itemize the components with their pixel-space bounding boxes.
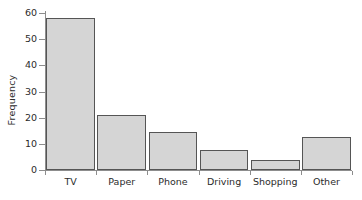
y-tick-label: 10: [0, 139, 37, 149]
x-tick-mark: [301, 171, 302, 175]
x-tick-label: Other: [301, 177, 352, 187]
x-tick-label: Paper: [96, 177, 147, 187]
bar-shopping: [251, 160, 300, 170]
bar-tv: [46, 18, 95, 170]
x-tick-label: Driving: [199, 177, 250, 187]
y-tick-label: 50: [0, 34, 37, 44]
bar-chart: Frequency 0102030405060 TVPaperPhoneDriv…: [0, 0, 362, 200]
y-tick-label: 20: [0, 113, 37, 123]
x-tick-label: Phone: [147, 177, 198, 187]
x-tick-mark: [96, 171, 97, 175]
bar-paper: [97, 115, 146, 170]
y-tick-mark: [39, 118, 45, 119]
bar-other: [302, 137, 351, 170]
y-tick-label: 60: [0, 8, 37, 18]
y-tick-mark: [39, 13, 45, 14]
y-tick-mark: [39, 144, 45, 145]
y-tick-label: 0: [0, 165, 37, 175]
y-tick-mark: [39, 92, 45, 93]
x-tick-mark: [250, 171, 251, 175]
x-tick-mark: [352, 171, 353, 175]
x-axis-line: [40, 170, 352, 171]
y-tick-mark: [39, 39, 45, 40]
x-tick-mark: [45, 171, 46, 175]
bar-phone: [149, 132, 198, 170]
y-tick-label: 40: [0, 60, 37, 70]
bar-driving: [200, 150, 249, 170]
x-tick-mark: [199, 171, 200, 175]
x-tick-mark: [147, 171, 148, 175]
y-tick-mark: [39, 65, 45, 66]
y-tick-label: 30: [0, 87, 37, 97]
x-tick-label: TV: [45, 177, 96, 187]
x-tick-label: Shopping: [250, 177, 301, 187]
